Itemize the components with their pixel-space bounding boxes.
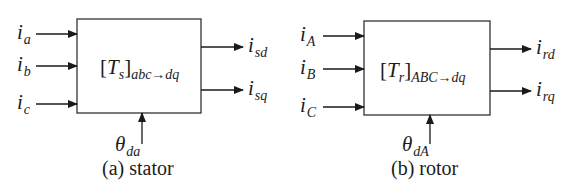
stator-output-label-sq: isq — [248, 78, 267, 103]
label-base: i — [248, 76, 254, 100]
stator-angle-label: θda — [115, 134, 140, 159]
label-base: i — [536, 35, 542, 59]
stator-transform-label: [Ts]abc→dq — [100, 57, 179, 82]
stator-caption: (a) stator — [102, 158, 174, 178]
bracket-open: [ — [100, 55, 107, 79]
diagram-canvas — [0, 0, 567, 190]
stator-output-label-sd: isd — [248, 35, 267, 60]
label-base: i — [248, 33, 254, 57]
rotor-transform-label: [Tr]ABC→dq — [380, 60, 466, 85]
label-base: θ — [402, 132, 412, 156]
label-base: i — [536, 77, 542, 101]
rotor-input-label-B: iB — [300, 57, 315, 82]
label-base: i — [17, 20, 23, 44]
rotor-input-label-C: iC — [300, 95, 316, 120]
label-sub: C — [307, 105, 316, 120]
label-sub: b — [24, 64, 31, 79]
label-base: i — [17, 90, 23, 114]
stator-input-label-c: ic — [17, 92, 30, 117]
transform-sub: abc→dq — [131, 67, 179, 82]
stator-input-label-b: ib — [17, 54, 31, 79]
label-sub: sq — [255, 88, 267, 103]
label-base: i — [17, 52, 23, 76]
rotor-output-label-rd: ird — [536, 37, 555, 62]
label-base: i — [300, 22, 306, 46]
label-sub: sd — [255, 45, 267, 60]
transform-symbol: T — [107, 55, 119, 79]
rotor-angle-label: θdA — [402, 134, 429, 159]
bracket-open: [ — [380, 58, 387, 82]
rotor-caption: (b) rotor — [391, 158, 458, 178]
rotor-input-label-A: iA — [300, 24, 315, 49]
label-sub: rd — [543, 47, 555, 62]
label-sub: c — [24, 102, 30, 117]
rotor-output-label-rq: irq — [536, 79, 555, 104]
label-sub: B — [307, 67, 316, 82]
label-base: i — [300, 93, 306, 117]
label-base: i — [300, 55, 306, 79]
label-sub: A — [307, 34, 316, 49]
transform-sub: ABC→dq — [411, 70, 465, 85]
transform-symbol: T — [387, 58, 399, 82]
label-sub: rq — [543, 89, 555, 104]
stator-input-label-a: ia — [17, 22, 31, 47]
label-base: θ — [115, 132, 125, 156]
label-sub: a — [24, 32, 31, 47]
